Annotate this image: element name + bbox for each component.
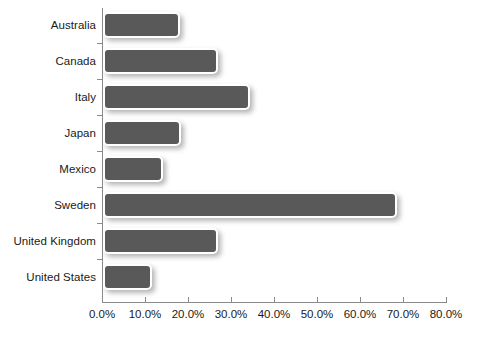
bar-united-kingdom[interactable] bbox=[103, 228, 218, 254]
y-axis-tick bbox=[97, 187, 103, 188]
x-axis-tick bbox=[446, 297, 447, 303]
bar-fill bbox=[103, 12, 180, 38]
y-axis-label: Italy bbox=[75, 79, 96, 115]
plot-area: Australia Canada Italy Japan Mexico bbox=[0, 0, 485, 338]
bar-fill bbox=[103, 264, 152, 290]
y-axis-label: Canada bbox=[55, 43, 96, 79]
x-axis-tick-label: 80.0% bbox=[414, 308, 478, 320]
bar-fill bbox=[103, 84, 250, 110]
bar-chart: Australia Canada Italy Japan Mexico bbox=[0, 0, 485, 338]
bar-fill bbox=[103, 48, 218, 74]
y-axis-tick bbox=[97, 259, 103, 260]
x-axis-tick bbox=[360, 297, 361, 303]
chart-row: Japan bbox=[0, 115, 485, 151]
y-axis-tick bbox=[97, 43, 103, 44]
x-axis-tick bbox=[102, 297, 103, 303]
x-axis-tick bbox=[231, 297, 232, 303]
chart-row: Italy bbox=[0, 79, 485, 115]
y-axis-label: Japan bbox=[64, 115, 96, 151]
bar-united-states[interactable] bbox=[103, 264, 152, 290]
y-axis-label: Mexico bbox=[59, 151, 96, 187]
bar-japan[interactable] bbox=[103, 120, 181, 146]
y-axis-tick bbox=[97, 115, 103, 116]
bar-italy[interactable] bbox=[103, 84, 250, 110]
bar-fill bbox=[103, 120, 181, 146]
y-axis-tick bbox=[97, 223, 103, 224]
y-axis-label: United Kingdom bbox=[13, 223, 96, 259]
y-axis-label: Australia bbox=[51, 7, 96, 43]
bar-sweden[interactable] bbox=[103, 192, 397, 218]
x-axis-tick bbox=[188, 297, 189, 303]
chart-row: Australia bbox=[0, 7, 485, 43]
x-axis-tick bbox=[403, 297, 404, 303]
y-axis-line bbox=[102, 8, 103, 302]
x-axis-tick bbox=[274, 297, 275, 303]
bar-fill bbox=[103, 192, 397, 218]
bar-fill bbox=[103, 228, 218, 254]
y-axis-tick bbox=[97, 79, 103, 80]
bar-fill bbox=[103, 156, 163, 182]
x-axis-tick bbox=[145, 297, 146, 303]
bar-canada[interactable] bbox=[103, 48, 218, 74]
bar-mexico[interactable] bbox=[103, 156, 163, 182]
chart-row: United States bbox=[0, 259, 485, 295]
y-axis-tick bbox=[97, 151, 103, 152]
chart-row: United Kingdom bbox=[0, 223, 485, 259]
y-axis-label: United States bbox=[26, 259, 96, 295]
y-axis-label: Sweden bbox=[54, 187, 96, 223]
bar-australia[interactable] bbox=[103, 12, 180, 38]
chart-row: Canada bbox=[0, 43, 485, 79]
chart-row: Sweden bbox=[0, 187, 485, 223]
x-axis-tick bbox=[317, 297, 318, 303]
chart-row: Mexico bbox=[0, 151, 485, 187]
